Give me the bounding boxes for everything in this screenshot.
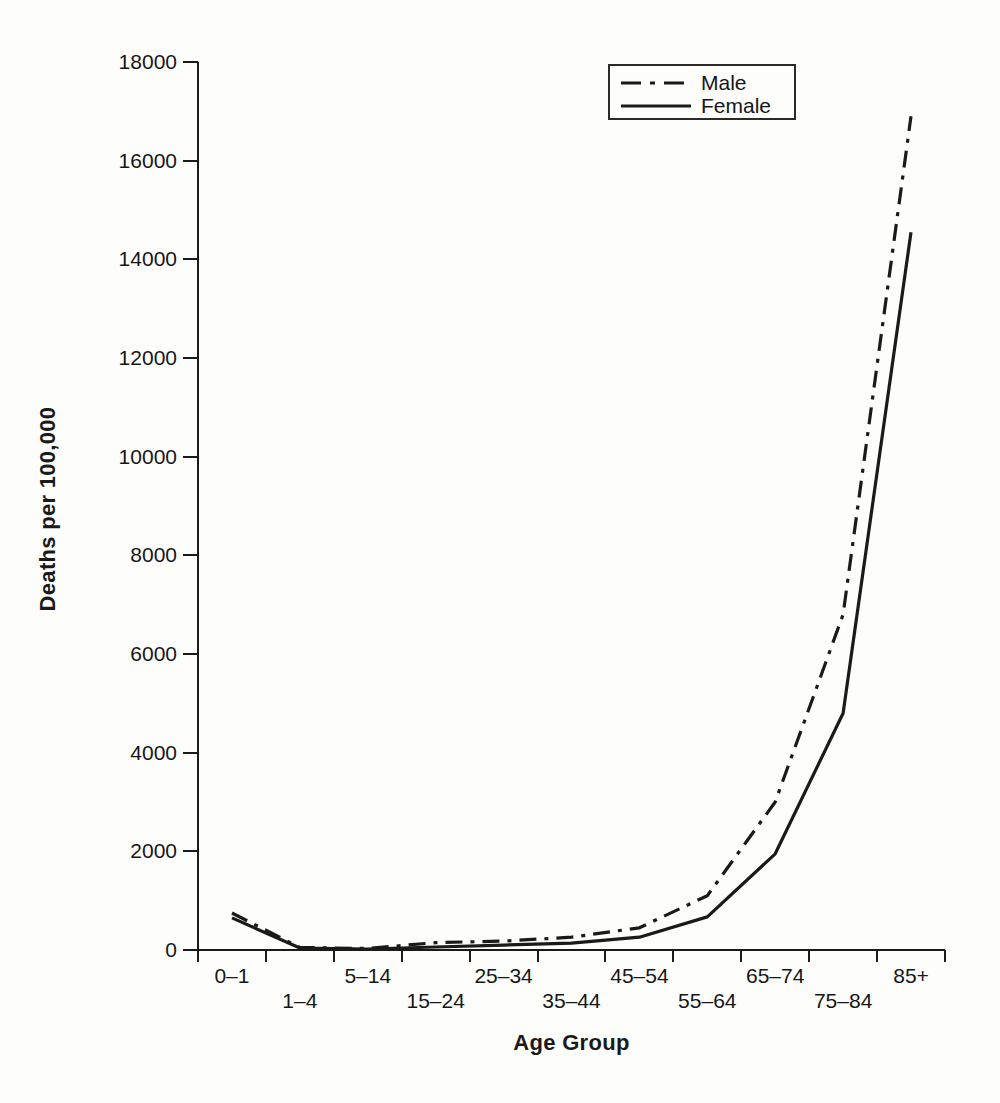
x-category-label: 1–4 (282, 989, 317, 1012)
y-tick-label: 6000 (130, 642, 177, 665)
legend-item-male: Male (620, 71, 794, 94)
y-tick-label: 12000 (119, 346, 177, 369)
scanned-figure-page: 0200040006000800010000120001400016000180… (0, 0, 1000, 1103)
y-axis-title: Deaths per 100,000 (35, 399, 61, 619)
female-line-sample-icon (620, 102, 692, 110)
y-tick-label: 16000 (119, 149, 177, 172)
mortality-line-chart: 0200040006000800010000120001400016000180… (0, 0, 1000, 1103)
legend-label-female: Female (701, 95, 771, 116)
y-tick-label: 0 (165, 938, 177, 961)
y-tick-label: 8000 (130, 543, 177, 566)
x-category-label: 25–34 (474, 964, 533, 987)
x-category-label: 55–64 (678, 989, 737, 1012)
female-line (232, 232, 911, 949)
x-category-label: 75–84 (814, 989, 873, 1012)
x-axis-title: Age Group (198, 1030, 945, 1056)
y-tick-label: 4000 (130, 741, 177, 764)
male-line-sample-icon (620, 79, 692, 87)
y-tick-label: 14000 (119, 247, 177, 270)
legend-label-male: Male (701, 72, 747, 93)
x-category-label: 45–54 (610, 964, 669, 987)
y-tick-label: 18000 (119, 50, 177, 73)
chart-legend: Male Female (608, 64, 796, 120)
x-category-label: 65–74 (746, 964, 805, 987)
y-tick-label: 2000 (130, 839, 177, 862)
legend-item-female: Female (620, 94, 794, 117)
male-line (232, 116, 911, 948)
x-category-label: 15–24 (406, 989, 465, 1012)
x-category-label: 35–44 (542, 989, 601, 1012)
y-tick-label: 10000 (119, 445, 177, 468)
x-category-label: 5–14 (344, 964, 391, 987)
x-category-label: 85+ (893, 964, 929, 987)
x-category-label: 0–1 (214, 964, 249, 987)
